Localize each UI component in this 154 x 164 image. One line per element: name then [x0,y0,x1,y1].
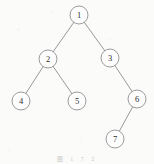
figure-caption: 图 1 7 2 [0,154,154,163]
tree-edge-6-7 [119,107,133,132]
tree-edge-2-4 [26,66,44,93]
tree-node-label-3: 3 [108,53,112,63]
tree-node-label-6: 6 [135,94,139,104]
tree-node-3[interactable]: 3 [101,49,119,67]
node-layer: 1234567 [12,6,146,148]
tree-node-label-1: 1 [77,10,81,20]
tree-node-label-7: 7 [113,134,117,144]
tree-node-label-5: 5 [75,96,79,106]
tree-edge-2-5 [53,66,72,94]
binary-tree-figure: 1234567 图 1 7 2 [0,0,154,164]
tree-node-7[interactable]: 7 [106,130,124,148]
tree-edge-1-2 [53,22,74,52]
tree-node-4[interactable]: 4 [12,92,30,110]
tree-node-1[interactable]: 1 [70,6,88,24]
tree-node-label-2: 2 [46,54,50,64]
tree-node-2[interactable]: 2 [39,50,57,68]
tree-graph-canvas: 1234567 [0,0,154,164]
tree-node-6[interactable]: 6 [128,90,146,108]
tree-node-5[interactable]: 5 [68,92,86,110]
tree-edge-3-6 [115,65,132,91]
tree-edge-1-3 [84,22,105,51]
edge-layer [26,22,133,131]
